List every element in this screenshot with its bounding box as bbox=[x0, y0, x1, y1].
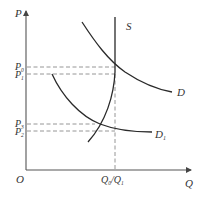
demand-shifted-label: D1 bbox=[154, 128, 166, 141]
quantity-label: Q0/Q1 bbox=[101, 174, 124, 186]
supply-label: S bbox=[126, 20, 132, 32]
x-axis-label: Q bbox=[185, 177, 193, 189]
demand-curve bbox=[82, 22, 172, 92]
demand-curve-shifted bbox=[52, 74, 152, 132]
y-axis-label: P bbox=[14, 7, 22, 19]
demand-label: D bbox=[176, 86, 185, 98]
supply-demand-diagram: P Q O S D D1 P0 P1 P3 P2 Q0/Q1 bbox=[0, 0, 206, 197]
origin-label: O bbox=[16, 173, 24, 185]
